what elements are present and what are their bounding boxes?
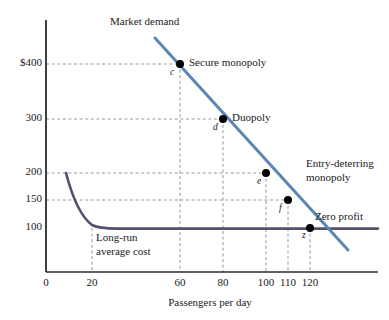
- annotation-entry-deterring-line2: monopoly: [306, 172, 351, 184]
- chart-canvas: $400 300 200 150 100 0 20 60 80 100 110 …: [0, 0, 389, 320]
- point-label-d: d: [213, 123, 218, 133]
- x-tick-0: 0: [36, 277, 56, 289]
- y-tick-400: $400: [2, 57, 42, 69]
- annotation-lrac-line1: Long-run: [96, 232, 138, 244]
- annotation-lrac-line2: average cost: [96, 246, 151, 258]
- annotation-zero-profit: Zero profit: [315, 211, 363, 223]
- point-label-e: e: [257, 177, 261, 187]
- y-tick-150: 150: [2, 193, 42, 205]
- x-tick-120: 120: [297, 277, 323, 289]
- horizontal-guides: [46, 64, 288, 200]
- x-tick-80: 80: [213, 277, 233, 289]
- point-label-z: z: [302, 231, 306, 241]
- point-label-f: f: [279, 204, 282, 214]
- data-point-d: [219, 115, 227, 123]
- annotation-market-demand: Market demand: [110, 16, 179, 28]
- annotation-duopoly: Duopoly: [232, 112, 271, 124]
- y-tick-200: 200: [2, 166, 42, 178]
- data-point-c: [176, 60, 184, 68]
- data-point-f: [284, 196, 292, 204]
- x-axis-title: Passengers per day: [120, 297, 300, 309]
- point-label-c: c: [170, 68, 174, 78]
- x-tick-20: 20: [82, 277, 102, 289]
- data-point-z: [306, 224, 314, 232]
- annotation-secure-monopoly: Secure monopoly: [189, 57, 266, 69]
- y-tick-300: 300: [2, 112, 42, 124]
- annotation-entry-deterring-line1: Entry-deterring: [306, 158, 374, 170]
- y-tick-100: 100: [2, 221, 42, 233]
- data-point-e: [262, 169, 270, 177]
- x-tick-60: 60: [170, 277, 190, 289]
